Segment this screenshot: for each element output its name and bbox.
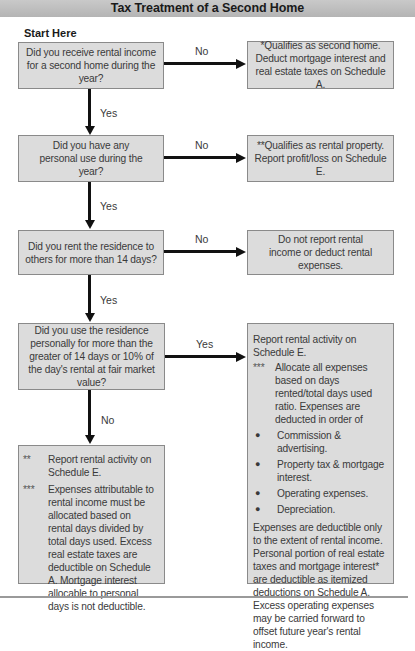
no-arrow-2-line xyxy=(164,156,237,159)
result-1-text: *Qualifies as second home. Deduct mortga… xyxy=(254,39,387,91)
bullet-icon: ● xyxy=(253,503,277,516)
yes-arrow-4-head xyxy=(236,352,246,362)
bullet-icon: ● xyxy=(253,487,277,500)
bullet-text: Commission & advertising. xyxy=(277,429,387,455)
yes-result-note: *** Allocate all expenses based on days … xyxy=(253,361,387,426)
no-result-note-1: ** Report rental activity on Schedule E. xyxy=(23,453,158,479)
bullet-text: Operating expenses. xyxy=(277,487,368,500)
result-3-text: Do not report rental income or deduct re… xyxy=(254,233,387,272)
yes-result-footer: Expenses are deductible only to the exte… xyxy=(253,521,387,651)
question-3-text: Did you rent the residence to others for… xyxy=(25,240,157,266)
no-label-1: No xyxy=(195,45,208,57)
yes-arrow-1-line xyxy=(88,89,91,127)
result-3-box: Do not report rental income or deduct re… xyxy=(247,230,394,275)
bullet-icon: ● xyxy=(253,429,277,455)
bullet-text: Property tax & mortgage interest. xyxy=(277,458,387,484)
question-4-box: Did you use the residence personally for… xyxy=(18,323,165,390)
question-1-text: Did you receive rental income for a seco… xyxy=(25,46,157,85)
note-mark: *** xyxy=(253,361,275,426)
no-result-box: ** Report rental activity on Schedule E.… xyxy=(18,445,165,584)
yes-result-box: Report rental activity on Schedule E. **… xyxy=(247,323,394,584)
yes-arrow-3-head xyxy=(85,313,95,322)
bullet-item: ● Commission & advertising. xyxy=(253,429,387,455)
note-text: Report rental activity on Schedule E. xyxy=(48,453,158,479)
note-text: Allocate all expenses based on days rent… xyxy=(275,361,387,426)
yes-label-1: Yes xyxy=(100,107,117,119)
yes-result-heading: Report rental activity on Schedule E. xyxy=(253,333,387,359)
start-label: Start Here xyxy=(24,27,77,39)
no-arrow-3-line xyxy=(164,250,237,253)
question-3-box: Did you rent the residence to others for… xyxy=(18,230,164,275)
yes-arrow-2-head xyxy=(85,220,95,229)
question-1-box: Did you receive rental income for a seco… xyxy=(18,42,164,89)
yes-label-3: Yes xyxy=(100,294,117,306)
no-arrow-3-head xyxy=(236,247,246,257)
diagram-title: Tax Treatment of a Second Home xyxy=(0,0,415,17)
result-1-box: *Qualifies as second home. Deduct mortga… xyxy=(247,41,394,89)
yes-arrow-1-head xyxy=(85,126,95,135)
result-2-text: **Qualifies as rental property. Report p… xyxy=(254,139,387,178)
no-label-3: No xyxy=(195,233,208,245)
yes-arrow-4-line xyxy=(165,355,237,358)
no-arrow-1-line xyxy=(164,62,237,65)
bullet-item: ● Operating expenses. xyxy=(253,487,387,500)
no-arrow-4-head xyxy=(85,435,95,444)
no-label-4: No xyxy=(101,414,114,426)
no-arrow-4-line xyxy=(88,390,91,436)
yes-label-4: Yes xyxy=(196,338,213,350)
yes-arrow-2-line xyxy=(88,182,91,221)
question-2-text: Did you have any personal use during the… xyxy=(25,139,157,178)
note-mark: ** xyxy=(23,453,48,479)
no-label-2: No xyxy=(195,139,208,151)
result-2-box: **Qualifies as rental property. Report p… xyxy=(247,135,394,182)
note-text: Expenses attributable to rental income m… xyxy=(48,483,158,613)
bullet-item: ● Depreciation. xyxy=(253,503,387,516)
no-arrow-1-head xyxy=(236,59,246,69)
yes-label-2: Yes xyxy=(100,200,117,212)
no-arrow-2-head xyxy=(236,153,246,163)
bullet-item: ● Property tax & mortgage interest. xyxy=(253,458,387,484)
bottom-divider xyxy=(0,596,408,598)
note-mark: *** xyxy=(23,483,48,613)
question-4-text: Did you use the residence personally for… xyxy=(25,324,158,389)
no-result-note-2: *** Expenses attributable to rental inco… xyxy=(23,483,158,613)
yes-arrow-3-line xyxy=(88,275,91,314)
bullet-text: Depreciation. xyxy=(277,503,335,516)
bullet-icon: ● xyxy=(253,458,277,484)
question-2-box: Did you have any personal use during the… xyxy=(18,135,164,182)
